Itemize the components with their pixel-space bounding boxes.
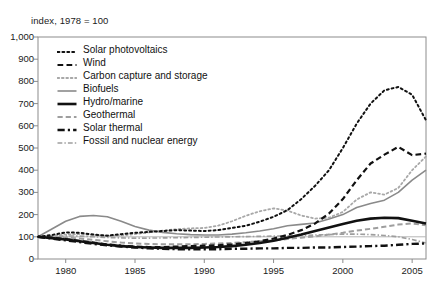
series-line	[38, 147, 426, 247]
x-axis-tick-label: 1980	[46, 266, 86, 276]
y-axis-tick-label: 1,000	[0, 32, 34, 42]
series-line	[38, 170, 426, 237]
series-line	[38, 156, 426, 236]
legend-item-label: Hydro/marine	[83, 96, 143, 108]
legend-line-swatch-icon	[57, 135, 77, 147]
legend-item[interactable]: Wind	[57, 56, 208, 69]
legend-item-label: Biofuels	[83, 83, 119, 95]
legend-line-swatch-icon	[57, 122, 77, 134]
legend-item[interactable]: Solar thermal	[57, 122, 208, 135]
legend-item-label: Solar photovoltaics	[83, 44, 168, 56]
legend-item-label: Fossil and nuclear energy	[83, 135, 198, 147]
x-axis-tick-label: 1990	[184, 266, 224, 276]
y-axis-tick-label: 500	[0, 143, 34, 153]
legend-line-swatch-icon	[57, 96, 77, 108]
legend-item[interactable]: Solar photovoltaics	[57, 43, 208, 56]
legend-line-swatch-icon	[57, 109, 77, 121]
y-axis-tick-label: 300	[0, 187, 34, 197]
y-axis-tick-label: 0	[0, 254, 34, 264]
legend-item-label: Wind	[83, 57, 106, 69]
legend-line-swatch-icon	[57, 70, 77, 82]
legend-item[interactable]: Geothermal	[57, 108, 208, 121]
legend-item[interactable]: Carbon capture and storage	[57, 69, 208, 82]
legend-item[interactable]: Fossil and nuclear energy	[57, 135, 208, 148]
legend-item-label: Carbon capture and storage	[83, 70, 208, 82]
legend-line-swatch-icon	[57, 83, 77, 95]
legend-item[interactable]: Hydro/marine	[57, 95, 208, 108]
legend-item-label: Geothermal	[83, 109, 135, 121]
chart-legend: Solar photovoltaicsWindCarbon capture an…	[57, 43, 208, 148]
x-axis-tick-label: 2000	[323, 266, 363, 276]
y-axis-tick-label: 600	[0, 121, 34, 131]
x-axis-tick-label: 1995	[254, 266, 294, 276]
y-axis-tick-label: 400	[0, 165, 34, 175]
legend-item-label: Solar thermal	[83, 122, 142, 134]
chart-container: index, 1978 = 100 Solar photovoltaicsWin…	[0, 0, 443, 294]
y-axis-tick-label: 900	[0, 54, 34, 64]
y-axis-tick-label: 200	[0, 210, 34, 220]
x-axis-tick-label: 2005	[392, 266, 432, 276]
x-axis-tick-label: 1985	[115, 266, 155, 276]
y-axis-tick-label: 800	[0, 76, 34, 86]
legend-line-swatch-icon	[57, 44, 77, 56]
y-axis-tick-label: 700	[0, 99, 34, 109]
y-axis-tick-label: 100	[0, 232, 34, 242]
legend-item[interactable]: Biofuels	[57, 82, 208, 95]
legend-line-swatch-icon	[57, 57, 77, 69]
